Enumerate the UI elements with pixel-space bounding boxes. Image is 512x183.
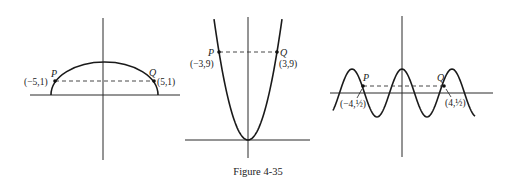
point-p	[53, 79, 57, 83]
point-p	[361, 84, 365, 88]
point-p	[217, 50, 221, 54]
label-p: P	[362, 72, 369, 83]
figure: P Q (−5,1) (5,1) P Q (−3,9) (3,9) P Q (−…	[0, 0, 512, 183]
panel-parabola: P Q (−3,9) (3,9)	[185, 17, 310, 158]
figure-caption: Figure 4-35	[233, 166, 282, 177]
coord-label-q: (5,1)	[157, 77, 175, 88]
coord-label-q: (3,9)	[279, 59, 297, 70]
point-q	[442, 84, 446, 88]
label-p: P	[50, 68, 57, 79]
coord-label-p: (−3,9)	[190, 59, 214, 70]
panel-cosine-wave: P Q (−4,½) (4,½)	[330, 16, 493, 157]
coord-label-q: (4,½)	[445, 98, 466, 109]
label-q: Q	[149, 67, 157, 78]
coord-label-p: (−5,1)	[24, 77, 48, 88]
point-q	[152, 79, 156, 83]
semi-ellipse-curve	[51, 62, 158, 95]
label-p: P	[207, 47, 214, 58]
coord-label-p: (−4,½)	[340, 99, 366, 110]
label-q: Q	[280, 47, 288, 58]
point-q	[275, 50, 279, 54]
label-q: Q	[437, 72, 445, 83]
panel-semi-ellipse: P Q (−5,1) (5,1)	[24, 18, 180, 160]
